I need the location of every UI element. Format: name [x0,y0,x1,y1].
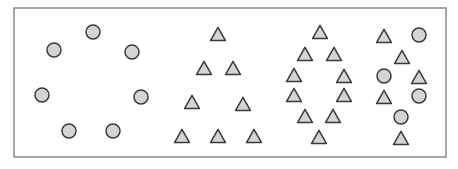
figure-canvas [0,0,458,169]
circle-icon [394,110,408,124]
triangle-icon [175,129,190,142]
triangle-icon [313,25,328,38]
group-triangle-pyramid [175,27,262,142]
triangle-icon [197,61,212,74]
group-triangle-diamond [287,25,352,143]
shape-groups [35,25,427,145]
triangle-icon [211,27,226,40]
triangle-icon [395,50,410,63]
triangle-icon [211,129,226,142]
circle-icon [125,45,139,59]
triangle-icon [298,109,313,122]
triangle-icon [298,47,313,60]
circle-icon [106,124,120,138]
triangle-icon [247,129,262,142]
triangle-icon [312,130,327,143]
circle-icon [412,89,426,103]
circle-icon [86,25,100,39]
group-circle-ring [35,25,148,138]
triangle-icon [394,131,409,144]
triangle-icon [287,88,302,101]
triangle-icon [337,69,352,82]
circle-icon [47,43,61,57]
circle-icon [35,88,49,102]
triangle-icon [337,88,352,101]
circle-icon [62,124,76,138]
triangle-icon [412,70,427,83]
group-mixed-cluster [377,28,427,145]
triangle-icon [326,109,341,122]
circle-icon [377,69,391,83]
triangle-icon [377,90,392,103]
triangle-icon [226,61,241,74]
triangle-icon [185,95,200,108]
triangle-icon [377,29,392,42]
triangle-icon [236,97,251,110]
triangle-icon [287,68,302,81]
circle-icon [412,28,426,42]
triangle-icon [327,47,342,60]
circle-icon [134,90,148,104]
